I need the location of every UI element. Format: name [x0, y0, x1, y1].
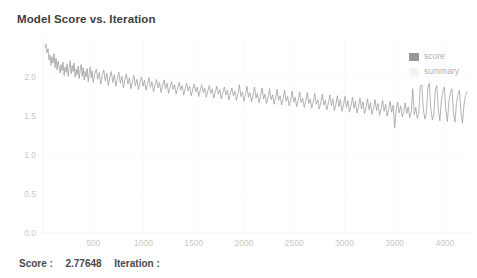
score-series-line	[45, 44, 467, 127]
vertical-gridlines	[43, 38, 445, 233]
plot-area: 0.00.51.01.52.0	[0, 30, 477, 240]
x-tick-label: 2000	[234, 238, 253, 248]
status-bar: Score : 2.77648 Iteration : ​	[0, 258, 477, 278]
line-chart-svg: 0.00.51.01.52.0	[0, 30, 477, 240]
status-readout: Score : 2.77648 Iteration :	[19, 258, 160, 269]
x-axis-tick-labels: 5001000150020002500300035004000	[0, 238, 477, 250]
legend-item-score[interactable]: score	[409, 51, 459, 62]
y-tick-label: 0.0	[24, 228, 36, 238]
legend-swatch-summary-icon	[409, 68, 419, 76]
x-tick-label: 3500	[385, 238, 404, 248]
x-tick-label: 3000	[335, 238, 354, 248]
score-value: 2.77648	[65, 258, 101, 269]
x-tick-label: 1000	[134, 238, 153, 248]
iteration-label: Iteration :	[114, 258, 160, 269]
legend-label-summary: summary	[424, 66, 459, 77]
horizontal-gridlines	[43, 77, 470, 233]
legend-swatch-score-icon	[409, 53, 419, 61]
chart-panel: Model Score vs. Iteration 0.00.51.01.52.…	[0, 0, 477, 278]
y-tick-label: 2.0	[24, 72, 36, 82]
page-title: Model Score vs. Iteration	[17, 13, 156, 25]
legend-item-summary[interactable]: summary	[409, 66, 459, 77]
x-tick-label: 4000	[435, 238, 454, 248]
score-label: Score :	[19, 258, 53, 269]
series-path-score	[45, 44, 467, 127]
y-tick-label: 0.5	[24, 189, 36, 199]
y-tick-label: 1.5	[24, 111, 36, 121]
y-tick-label: 1.0	[24, 150, 36, 160]
chart-legend: score summary	[409, 51, 459, 81]
x-tick-label: 1500	[184, 238, 203, 248]
x-tick-label: 2500	[285, 238, 304, 248]
legend-label-score: score	[424, 51, 445, 62]
y-axis-tick-labels: 0.00.51.01.52.0	[24, 72, 36, 238]
x-tick-label: 500	[86, 238, 100, 248]
